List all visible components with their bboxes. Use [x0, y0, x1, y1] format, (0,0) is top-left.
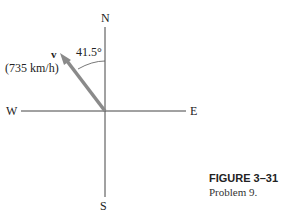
- figure-caption-title: FIGURE 3–31: [209, 172, 278, 184]
- west-label: W: [6, 105, 17, 117]
- angle-label: 41.5°: [76, 46, 102, 58]
- velocity-vector: [67, 61, 105, 111]
- diagram-canvas: [0, 0, 286, 217]
- south-label: S: [100, 200, 107, 212]
- angle-arc: [78, 61, 105, 69]
- vector-magnitude: (735 km/h): [5, 62, 59, 74]
- figure-caption-text: Problem 9.: [209, 186, 257, 198]
- vector-symbol: v⃗: [51, 48, 65, 60]
- east-label: E: [190, 105, 197, 117]
- north-label: N: [101, 12, 110, 24]
